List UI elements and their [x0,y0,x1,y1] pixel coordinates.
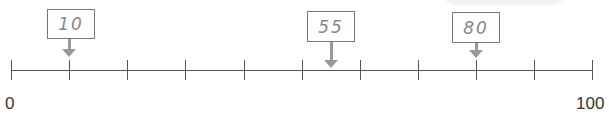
max-label: 100 [576,94,604,114]
arrow-down-icon [62,49,76,57]
tick-50 [302,60,303,80]
tick-70 [418,60,419,80]
marker-box: 55 [307,11,355,42]
arrow-down-icon [469,50,483,58]
tick-20 [127,60,128,80]
arrow-shaft [330,42,333,61]
marker-box: 10 [47,9,95,39]
tick-30 [185,60,186,80]
background-decoration [440,0,570,5]
tick-100 [592,60,593,80]
min-label: 0 [5,94,14,114]
arrow-down-icon [324,60,338,68]
tick-80 [476,60,477,80]
tick-60 [360,60,361,80]
marker-box: 80 [452,12,500,43]
tick-10 [69,60,70,80]
tick-0 [11,60,12,80]
tick-90 [534,60,535,80]
tick-40 [244,60,245,80]
